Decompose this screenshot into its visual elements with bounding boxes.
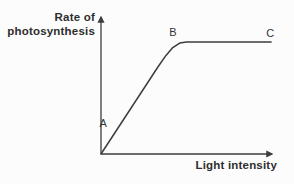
y-axis-label-line1: Rate of <box>7 10 95 24</box>
photosynthesis-curve <box>101 42 271 154</box>
point-label-A: A <box>100 117 108 129</box>
photosynthesis-light-graph: ABC Rate of photosynthesis Light intensi… <box>0 0 294 184</box>
y-axis-label: Rate of photosynthesis <box>7 10 95 38</box>
point-label-C: C <box>266 27 274 39</box>
point-label-B: B <box>169 26 176 38</box>
x-axis-label: Light intensity <box>195 158 277 172</box>
y-axis-label-line2: photosynthesis <box>7 24 95 38</box>
